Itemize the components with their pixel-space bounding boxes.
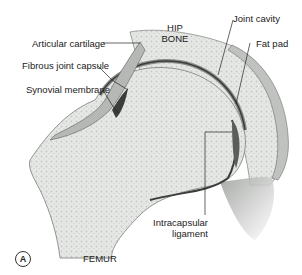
hip-bone-label: HIP BONE: [155, 22, 195, 44]
fibrous-joint-capsule-label: Fibrous joint capsule: [22, 60, 109, 71]
synovial-membrane-label: Synovial membrane: [26, 84, 110, 95]
fat-pad-label: Fat pad: [256, 38, 288, 49]
femur: [29, 67, 245, 258]
hip-joint-diagram: HIP BONE Articular cartilage Fibrous joi…: [0, 0, 302, 275]
articular-cartilage-label: Articular cartilage: [32, 38, 105, 49]
panel-label: A: [15, 251, 31, 267]
intracapsular-ligament-label: Intracapsular ligament: [150, 217, 208, 239]
femur-label: FEMUR: [83, 253, 117, 264]
joint-cavity-label: Joint cavity: [233, 13, 280, 24]
